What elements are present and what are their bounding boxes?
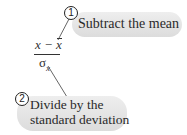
annotation-label-line-2: standard deviation xyxy=(30,112,129,127)
step-number-1-badge: 1 xyxy=(64,6,78,20)
annotation-label: Divide by the standard deviation xyxy=(30,97,129,127)
mean-x-bar: x xyxy=(56,37,62,52)
annotation-bubble-divide-sd: Divide by the standard deviation xyxy=(17,96,127,131)
sigma-subscript: x xyxy=(46,63,50,73)
sigma-symbol: σ xyxy=(39,55,46,70)
annotation-label: Subtract the mean xyxy=(78,16,179,32)
step-number-2-badge: 2 xyxy=(15,92,29,106)
annotation-label-line-1: Divide by the xyxy=(30,97,129,112)
leader-line-2 xyxy=(48,66,67,97)
formula-denominator: σx xyxy=(39,55,50,73)
minus-operator: − xyxy=(41,37,56,52)
formula-numerator: x − x xyxy=(35,37,62,53)
annotation-bubble-subtract-mean: Subtract the mean xyxy=(72,12,182,37)
